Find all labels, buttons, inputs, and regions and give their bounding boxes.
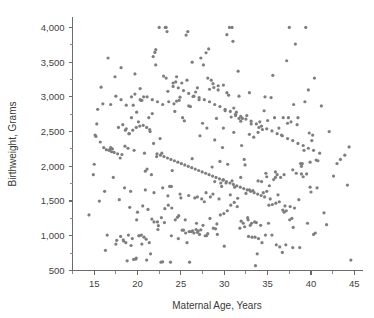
scatter-point (154, 48, 157, 51)
scatter-point (155, 152, 158, 155)
x-tick-label: 35 (262, 278, 273, 289)
scatter-point (131, 129, 134, 132)
scatter-point (311, 133, 314, 136)
scatter-point (277, 127, 280, 130)
scatter-point (243, 225, 246, 228)
scatter-point (346, 183, 349, 186)
scatter-chart-figure: 5001,0001,5002,0002,5003,0003,5004,000 1… (0, 0, 374, 318)
scatter-point (232, 183, 235, 186)
scatter-point (271, 74, 274, 77)
scatter-point (274, 176, 277, 179)
scatter-point (139, 87, 142, 90)
y-tick-label: 3,000 (41, 91, 65, 102)
scatter-point (111, 147, 114, 150)
scatter-point (211, 165, 214, 168)
scatter-point (204, 191, 207, 194)
scatter-point (348, 145, 351, 148)
scatter-point (150, 173, 153, 176)
scatter-point (222, 212, 225, 215)
scatter-point (182, 89, 185, 92)
scatter-point (116, 152, 119, 155)
scatter-point (137, 120, 140, 123)
scatter-point (204, 172, 207, 175)
scatter-point (184, 218, 187, 221)
scatter-point (135, 111, 138, 114)
scatter-point (223, 245, 226, 248)
scatter-point (141, 204, 144, 207)
scatter-point (147, 116, 150, 119)
scatter-point (281, 134, 284, 137)
scatter-point (135, 126, 138, 129)
scatter-point (145, 258, 148, 261)
scatter-point (262, 191, 265, 194)
scatter-point (286, 122, 289, 125)
scatter-point (211, 193, 214, 196)
scatter-point (115, 239, 118, 242)
scatter-point (254, 264, 257, 267)
scatter-point (282, 116, 285, 119)
scatter-point (267, 204, 270, 207)
scatter-point (302, 144, 305, 147)
scatter-point (196, 86, 199, 89)
scatter-point (173, 110, 176, 113)
scatter-point (288, 218, 291, 221)
y-tick-label: 1,500 (41, 195, 65, 206)
scatter-point (230, 26, 233, 29)
scatter-point (175, 75, 178, 78)
scatter-point (94, 135, 97, 138)
scatter-point (166, 156, 169, 159)
scatter-point (300, 172, 303, 175)
scatter-point (288, 26, 291, 29)
scatter-point (230, 115, 233, 118)
scatter-point (210, 79, 213, 82)
scatter-point (243, 158, 246, 161)
scatter-point (289, 120, 292, 123)
scatter-point (185, 79, 188, 82)
scatter-point (203, 200, 206, 203)
scatter-point (161, 186, 164, 189)
scatter-point (103, 190, 106, 193)
scatter-point (119, 156, 122, 159)
scatter-point (291, 139, 294, 142)
scatter-point (291, 246, 294, 249)
scatter-point (156, 100, 159, 103)
scatter-point (270, 129, 273, 132)
scatter-point (309, 190, 312, 193)
scatter-point (275, 243, 278, 246)
scatter-point (131, 237, 134, 240)
x-tick-label: 40 (306, 278, 317, 289)
scatter-point (179, 196, 182, 199)
scatter-point (129, 190, 132, 193)
scatter-point (188, 261, 191, 264)
y-tick-label: 1,000 (41, 230, 65, 241)
scatter-point (247, 235, 250, 238)
scatter-point (155, 155, 158, 158)
scatter-point (87, 213, 90, 216)
scatter-point (229, 204, 232, 207)
scatter-point (208, 217, 211, 220)
scatter-point (98, 199, 101, 202)
scatter-point (133, 92, 136, 95)
scatter-point (284, 243, 287, 246)
scatter-point (300, 165, 303, 168)
scatter-point (306, 222, 309, 225)
scatter-point (279, 176, 282, 179)
scatter-point (133, 72, 136, 75)
scatter-point (308, 131, 311, 134)
y-tick-label: 2,500 (41, 126, 65, 137)
y-tick-label: 500 (49, 265, 65, 276)
scatter-point (292, 226, 295, 229)
scatter-point (256, 193, 259, 196)
scatter-point (109, 103, 112, 106)
scatter-point (271, 203, 274, 206)
scatter-point (124, 241, 127, 244)
scatter-point (250, 236, 253, 239)
scatter-point (113, 75, 116, 78)
scatter-point (203, 98, 206, 101)
scatter-point (123, 145, 126, 148)
scatter-point (268, 184, 271, 187)
scatter-point (328, 130, 331, 133)
scatter-point (295, 172, 298, 175)
scatter-point (166, 194, 169, 197)
scatter-point (303, 100, 306, 103)
